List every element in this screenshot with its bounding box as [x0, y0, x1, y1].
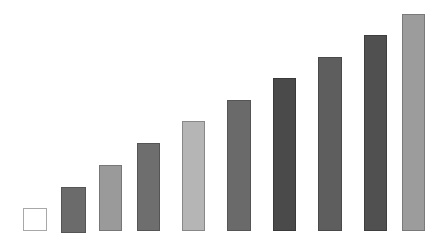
bar-10 — [402, 14, 425, 231]
bar-9 — [364, 35, 387, 231]
bar-7 — [273, 78, 296, 231]
bar-6 — [227, 100, 251, 231]
bar-1 — [23, 208, 47, 231]
bar-3 — [99, 165, 122, 231]
bar-chart — [0, 0, 436, 248]
bar-4 — [137, 143, 160, 231]
bar-8 — [318, 57, 342, 231]
bar-2 — [61, 187, 86, 233]
bar-5 — [182, 121, 205, 231]
